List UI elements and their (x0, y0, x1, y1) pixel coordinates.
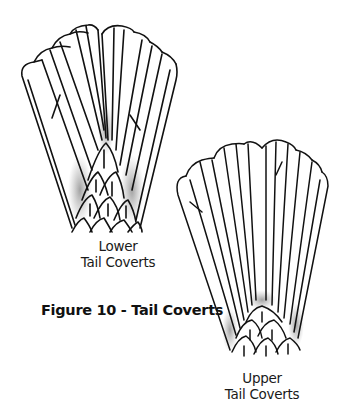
figure-caption: Figure 10 - Tail Coverts (41, 302, 223, 318)
label-line: Lower (58, 238, 178, 254)
feather-tip (244, 142, 262, 148)
label-line: Tail Coverts (58, 254, 178, 270)
label-line: Upper (212, 370, 312, 386)
feather-edge (42, 60, 88, 190)
feather-tip (214, 144, 244, 159)
feather-edge (212, 160, 244, 320)
feather-edge (272, 142, 276, 305)
feather-outline (140, 64, 177, 228)
feather-tip (296, 150, 312, 160)
feather-tip (186, 158, 214, 176)
feather-edge (116, 30, 124, 150)
feather-edge (112, 28, 114, 140)
shading (288, 303, 304, 347)
feather-tip (312, 160, 322, 172)
label-line: Tail Coverts (212, 386, 312, 402)
feather-tip (102, 26, 134, 34)
upper-tail-fan (177, 140, 328, 356)
tail-coverts-illustration (0, 0, 354, 410)
lower-tail-coverts-label: Lower Tail Coverts (58, 238, 178, 270)
feather-outline (298, 172, 328, 338)
feather-notch (276, 162, 282, 175)
feather-tip (162, 52, 176, 64)
feather-tip (262, 140, 296, 150)
upper-tail-coverts-label: Upper Tail Coverts (212, 370, 312, 402)
feather-notch (190, 202, 202, 212)
lower-tail-fan (22, 25, 177, 232)
feather-outline (177, 176, 230, 350)
